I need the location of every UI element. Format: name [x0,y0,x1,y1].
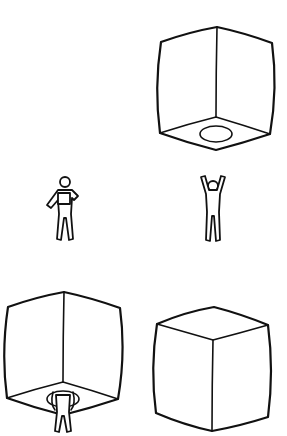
cube-with-person-inside [4,292,122,432]
illustration-canvas [0,0,287,436]
figure-holding-box [47,177,78,240]
opening-ellipse [200,126,232,142]
cube-from-below [157,27,274,150]
cube-from-above [153,307,271,431]
figure-arms-raised [201,176,225,241]
